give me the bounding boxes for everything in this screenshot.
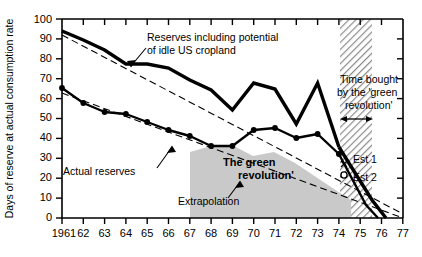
xtick-73: 73: [311, 227, 323, 239]
anno-reserves-line2: of idle US cropland: [147, 44, 236, 56]
ytick-100: 100: [34, 13, 52, 25]
reserves-line-chart: 0 10 20 30 40 50 60 70 80 90 100: [0, 0, 422, 257]
ytick-20: 20: [40, 171, 52, 183]
xtick-66: 66: [162, 227, 174, 239]
x-axis-ticks: [62, 218, 403, 224]
est2-label: Est 2: [353, 171, 377, 183]
xtick-74: 74: [333, 227, 345, 239]
ytick-30: 30: [40, 151, 52, 163]
anno-time-line2: by the 'green: [337, 86, 398, 98]
xtick-62: 62: [77, 227, 89, 239]
est2-marker: [341, 172, 347, 178]
ytick-70: 70: [40, 72, 52, 84]
anno-extrapolation: Extrapolation: [178, 195, 239, 207]
ytick-40: 40: [40, 131, 52, 143]
xtick-77: 77: [397, 227, 409, 239]
anno-green-line1: The green: [223, 156, 276, 168]
xtick-68: 68: [205, 227, 217, 239]
anno-green-line2: revolution': [238, 169, 294, 181]
ytick-50: 50: [40, 111, 52, 123]
xtick-72: 72: [290, 227, 302, 239]
xtick-69: 69: [226, 227, 238, 239]
y-axis-ticks: [56, 19, 62, 218]
xtick-64: 64: [120, 227, 132, 239]
anno-actual-reserves: Actual reserves: [63, 165, 135, 177]
xtick-65: 65: [141, 227, 153, 239]
est1-label: Est 1: [353, 153, 377, 165]
y-axis-tick-labels: 0 10 20 30 40 50 60 70 80 90 100: [34, 13, 52, 223]
ytick-80: 80: [40, 52, 52, 64]
xtick-63: 63: [98, 227, 110, 239]
ytick-60: 60: [40, 92, 52, 104]
y-axis-title: Days of reserve at actual consumption ra…: [3, 19, 15, 219]
xtick-75: 75: [354, 227, 366, 239]
ytick-10: 10: [40, 191, 52, 203]
xtick-70: 70: [248, 227, 260, 239]
ytick-90: 90: [40, 32, 52, 44]
chart-container: 0 10 20 30 40 50 60 70 80 90 100: [0, 0, 422, 257]
xtick-76: 76: [375, 227, 387, 239]
anno-time-line3: revolution': [345, 99, 393, 111]
ytick-0: 0: [46, 211, 52, 223]
xtick-1961: 1961: [52, 227, 76, 239]
x-axis-tick-labels: 1961 62 63 64 65 66 67 68 69 70 71 72 73…: [52, 227, 409, 239]
anno-time-line1: Time bought: [340, 73, 398, 85]
xtick-67: 67: [184, 227, 196, 239]
anno-reserves-line1: Reserves including potential: [147, 31, 278, 43]
xtick-71: 71: [269, 227, 281, 239]
